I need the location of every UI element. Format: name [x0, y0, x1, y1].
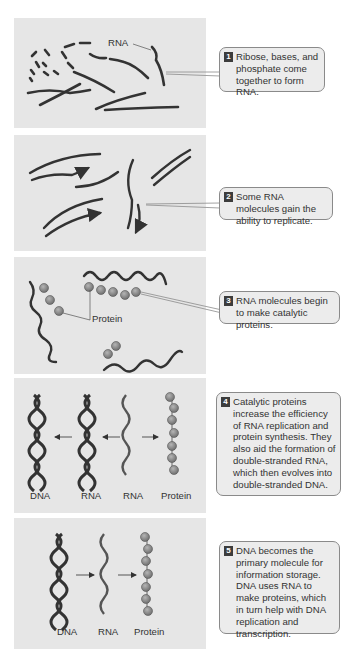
step-number-badge: 5 [224, 546, 233, 556]
callout-step-5: 5 DNA becomes the primary molecule for i… [219, 541, 340, 634]
callout-text: RNA molecules begin to make catalytic pr… [236, 295, 328, 330]
step-number-badge: 3 [224, 296, 233, 306]
protein-label-step-4: Protein [161, 490, 191, 501]
callout-text: Catalytic proteins increase the efficien… [233, 396, 335, 490]
protein-label: Protein [92, 313, 122, 324]
step-number-badge: 4 [221, 397, 230, 407]
rna-label-step-4b: RNA [123, 490, 143, 501]
callout-step-1: 1 Ribose, bases, and phosphate come toge… [219, 47, 325, 92]
dna-label-step-4: DNA [30, 490, 50, 501]
protein-label-step-5: Protein [134, 626, 164, 637]
callout-step-3: 3 RNA molecules begin to make catalytic … [219, 291, 340, 324]
rna-label-step-4a: RNA [81, 490, 101, 501]
panel-step-1 [14, 18, 206, 128]
panel-step-2 [14, 135, 206, 251]
callout-step-4: 4 Catalytic proteins increase the effici… [216, 392, 341, 496]
dna-label-step-5: DNA [57, 626, 77, 637]
step-number-badge: 1 [224, 52, 233, 62]
callout-text: Some RNA molecules gain the ability to r… [236, 191, 316, 226]
callout-text: Ribose, bases, and phosphate come togeth… [236, 51, 318, 97]
step-number-badge: 2 [224, 192, 233, 202]
callout-step-2: 2 Some RNA molecules gain the ability to… [219, 187, 333, 220]
callout-text: DNA becomes the primary molecule for inf… [236, 545, 326, 639]
rna-label: RNA [108, 37, 128, 48]
rna-label-step-5: RNA [98, 626, 118, 637]
